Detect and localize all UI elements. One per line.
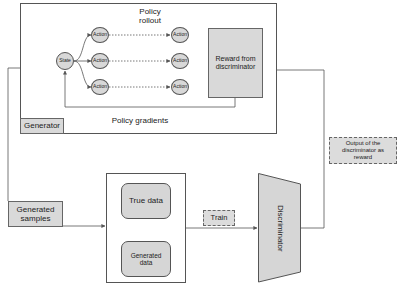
output-reward-box: Output of the discriminator as reward bbox=[329, 137, 397, 164]
state-node: State bbox=[56, 52, 74, 70]
policy-gradients-label: Policy gradients bbox=[100, 114, 180, 128]
action-node: Action bbox=[171, 53, 189, 69]
action-node: Action bbox=[91, 27, 109, 43]
action-node: Action bbox=[171, 27, 189, 43]
generator-label: Generator bbox=[20, 118, 64, 134]
reward-from-discriminator-box: Reward from discriminator bbox=[208, 28, 263, 98]
generated-data-box: Generated data bbox=[121, 241, 171, 277]
true-data-box: True data bbox=[121, 183, 171, 219]
train-label: Train bbox=[203, 210, 235, 226]
action-node: Action bbox=[171, 79, 189, 95]
generated-samples-box: Generated samples bbox=[8, 201, 63, 227]
action-node: Action bbox=[91, 79, 109, 95]
action-node: Action bbox=[91, 53, 109, 69]
policy-rollout-label: Policy rollout bbox=[120, 5, 180, 27]
discriminator-label: Discriminator bbox=[269, 190, 291, 266]
